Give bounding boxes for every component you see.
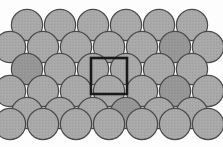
atom-circle <box>0 108 26 139</box>
atom-circle <box>159 108 190 139</box>
atom-circle <box>27 108 58 139</box>
atom-circle <box>192 108 223 139</box>
atom-circle <box>60 108 91 139</box>
atom-layer <box>0 9 223 139</box>
atom-circle <box>126 108 157 139</box>
lattice-canvas <box>0 0 223 147</box>
atom-circle <box>93 108 124 139</box>
lattice-figure <box>0 0 223 147</box>
